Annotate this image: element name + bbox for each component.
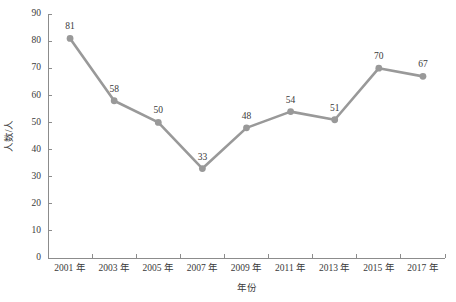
- x-tick-label: 2001 年: [54, 262, 85, 273]
- chart-canvas: 0102030405060708090 2001 年2003 年2005 年20…: [0, 0, 456, 302]
- x-tick-label: 2003 年: [98, 262, 129, 273]
- data-point-label: 54: [286, 95, 296, 105]
- data-point-marker: [111, 97, 118, 104]
- x-tick-label: 2013 年: [319, 262, 350, 273]
- x-tick-label: 2005 年: [143, 262, 174, 273]
- data-point-label: 50: [154, 105, 164, 115]
- x-tick-label: 2017 年: [407, 262, 438, 273]
- data-point-label: 48: [242, 111, 252, 121]
- y-tick-label: 20: [32, 198, 42, 208]
- x-tick-label: 2007 年: [187, 262, 218, 273]
- x-axis-tick-labels: 2001 年2003 年2005 年2007 年2009 年2011 年2013…: [54, 262, 438, 273]
- data-point-marker: [243, 124, 250, 131]
- x-tick-label: 2009 年: [231, 262, 262, 273]
- data-point-label: 58: [109, 84, 119, 94]
- data-point-marker: [67, 35, 74, 42]
- data-point-marker: [155, 119, 162, 126]
- data-point-marker: [375, 65, 382, 72]
- x-tick-label: 2011 年: [275, 262, 306, 273]
- y-tick-label: 80: [32, 35, 42, 45]
- y-tick-label: 90: [32, 8, 42, 18]
- y-axis-title: 人数/人: [3, 120, 14, 153]
- data-point-marker: [287, 108, 294, 115]
- data-point-marker: [331, 116, 338, 123]
- y-tick-label: 70: [32, 62, 42, 72]
- y-tick-label: 0: [36, 252, 41, 262]
- data-point-marker: [199, 165, 206, 172]
- y-tick-label: 10: [32, 225, 42, 235]
- y-tick-label: 30: [32, 171, 42, 181]
- data-point-label: 81: [65, 21, 75, 31]
- x-tick-label: 2015 年: [363, 262, 394, 273]
- data-point-marker: [420, 73, 427, 80]
- data-point-label: 70: [374, 51, 384, 61]
- data-point-label: 51: [330, 103, 340, 113]
- y-tick-label: 40: [32, 144, 42, 154]
- x-axis-title: 年份: [237, 282, 257, 293]
- data-point-label: 33: [198, 152, 208, 162]
- line-chart: 0102030405060708090 2001 年2003 年2005 年20…: [0, 0, 456, 302]
- chart-background: [0, 0, 456, 302]
- y-tick-label: 60: [32, 90, 42, 100]
- data-point-label: 67: [418, 59, 428, 69]
- y-tick-label: 50: [32, 117, 42, 127]
